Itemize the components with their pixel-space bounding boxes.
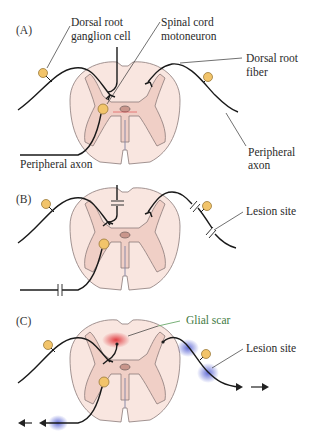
growth-arrow-right-2 — [262, 383, 269, 391]
lesion-mark-peripheral — [206, 227, 213, 235]
panel-a: (A) Dorsal root ganglion cell Spinal cor… — [16, 16, 299, 171]
panel-a-label: (A) — [16, 24, 32, 37]
dorsal-root-ganglion-cell-right — [204, 73, 213, 82]
spinal-cord-regeneration-diagram: (A) Dorsal root ganglion cell Spinal cor… — [0, 0, 316, 445]
dorsal-root-ganglion-cell-right-b — [203, 202, 212, 211]
panel-c: (C) Glial scar Les — [16, 314, 296, 431]
dorsal-root-ganglion-cell-left-c — [44, 341, 53, 350]
label-lesion-site-c: Lesion site — [246, 342, 296, 354]
label-motoneuron-line1: Spinal cord — [161, 16, 214, 29]
panel-b: (B) Lesion site — [16, 185, 296, 296]
label-motoneuron-line2: motoneuron — [161, 30, 217, 42]
label-dorsal-root-fiber-line1: Dorsal root — [246, 52, 299, 64]
label-drg-line1: Dorsal root — [71, 16, 124, 28]
growth-arrow-left-2 — [18, 419, 25, 427]
label-peripheral-axon-left: Peripheral axon — [20, 158, 93, 171]
growth-arrow-right-1 — [236, 383, 243, 391]
dorsal-root-ganglion-cell-left — [39, 69, 48, 78]
dorsal-root-ganglion-cell-right-c — [202, 350, 211, 359]
panel-b-label: (B) — [16, 193, 32, 206]
label-glial-scar: Glial scar — [186, 314, 231, 326]
spinal-cord-motoneuron-c — [99, 377, 109, 387]
label-lesion-site-b: Lesion site — [246, 205, 296, 217]
label-peripheral-axon-right-line1: Peripheral — [248, 146, 295, 159]
regeneration-site-dorsal-root — [177, 339, 199, 357]
spinal-cord-motoneuron-b — [99, 239, 109, 249]
label-drg-line2: ganglion cell — [71, 30, 131, 43]
label-peripheral-axon-right-line2: axon — [248, 159, 271, 171]
spinal-cord-motoneuron — [98, 104, 108, 114]
growth-arrow-left-1 — [39, 419, 46, 427]
label-dorsal-root-fiber-line2: fiber — [246, 66, 268, 78]
panel-c-label: (C) — [16, 315, 32, 328]
glial-scar — [102, 332, 130, 348]
spinal-cord-cross-section-b — [70, 188, 180, 290]
dorsal-root-ganglion-cell-left-b — [42, 200, 51, 209]
